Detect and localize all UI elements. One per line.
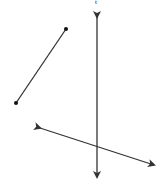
geometry-diagram: t	[0, 0, 164, 187]
segment-endpoint-bottom	[14, 101, 18, 105]
diagram-svg	[0, 0, 164, 187]
line-segment	[14, 27, 68, 105]
vertical-line-label: t	[95, 0, 97, 6]
segment-endpoint-top	[64, 27, 68, 31]
